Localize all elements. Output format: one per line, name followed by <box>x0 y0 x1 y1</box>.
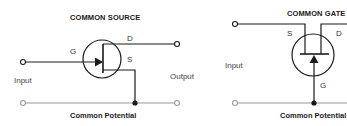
source-wire <box>103 70 135 103</box>
source-pin-label: S <box>127 55 132 64</box>
common-source-title: COMMON SOURCE <box>70 13 140 22</box>
source-wire <box>237 24 305 54</box>
gate-pin-label: G <box>70 47 76 56</box>
ground-terminal-right-icon <box>175 101 180 106</box>
transistor-body-icon <box>83 40 121 78</box>
gate-pin-label: G <box>320 81 326 90</box>
gate-arrow-icon <box>310 55 319 63</box>
common-gate-title: COMMON GATE <box>287 9 345 18</box>
source-pin-label: S <box>287 29 292 38</box>
transistor-body-icon <box>292 34 334 76</box>
gate-arrow-icon <box>95 58 103 67</box>
drain-pin-label: D <box>127 34 133 43</box>
fet-configurations-diagram: COMMON SOURCE G D S Input Output Common … <box>0 0 347 126</box>
drain-wire <box>321 24 347 54</box>
input-terminal-icon <box>21 60 26 65</box>
common-potential-label: Common Potential <box>70 111 136 120</box>
ground-terminal-left-icon <box>233 101 238 106</box>
common-gate-circuit: COMMON GATE S D G Input Common Potential <box>225 9 347 120</box>
junction-dot-icon <box>311 100 316 105</box>
input-terminal-icon <box>233 22 238 27</box>
input-label: Input <box>14 76 33 85</box>
junction-dot-icon <box>132 100 137 105</box>
input-label: Input <box>225 61 244 70</box>
ground-terminal-left-icon <box>21 101 26 106</box>
output-terminal-icon <box>175 42 180 47</box>
common-potential-label: Common Potential <box>280 111 346 120</box>
drain-pin-label: D <box>336 29 342 38</box>
common-source-circuit: COMMON SOURCE G D S Input Output Common … <box>14 13 195 120</box>
output-label: Output <box>170 72 195 81</box>
